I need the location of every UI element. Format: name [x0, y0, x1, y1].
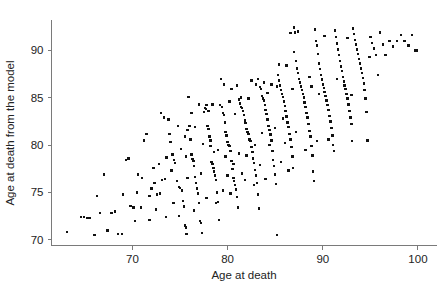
- data-point: [223, 114, 225, 116]
- data-point: [216, 191, 218, 193]
- data-point: [316, 140, 318, 142]
- data-point: [360, 67, 362, 69]
- data-point: [336, 42, 338, 44]
- x-tick-label: 90: [316, 253, 329, 265]
- data-point: [343, 84, 345, 86]
- data-point: [342, 76, 344, 78]
- data-point: [332, 144, 334, 146]
- data-point: [236, 196, 238, 198]
- data-point: [200, 172, 202, 174]
- data-point: [99, 212, 101, 214]
- data-point: [272, 159, 274, 161]
- data-point: [224, 131, 226, 133]
- data-point: [303, 101, 305, 103]
- data-point: [275, 183, 277, 185]
- data-point: [161, 179, 163, 181]
- data-point: [392, 45, 394, 47]
- data-point: [329, 120, 331, 122]
- data-point: [88, 217, 90, 219]
- data-point: [253, 162, 255, 164]
- data-point: [179, 187, 181, 189]
- data-point: [280, 89, 282, 91]
- data-point: [388, 40, 390, 42]
- data-point: [211, 163, 213, 165]
- x-tick-label: 80: [221, 253, 234, 265]
- data-point: [337, 48, 339, 50]
- data-point: [224, 155, 226, 157]
- data-point: [178, 215, 180, 217]
- data-point: [239, 102, 241, 104]
- x-tick-label: 100: [408, 253, 427, 265]
- data-point: [185, 226, 187, 228]
- data-point: [284, 110, 286, 112]
- data-point: [229, 192, 231, 194]
- data-point: [403, 40, 405, 42]
- data-point: [266, 92, 268, 94]
- data-point: [242, 110, 244, 112]
- data-point: [273, 165, 275, 167]
- data-point: [66, 231, 68, 233]
- data-point: [148, 195, 150, 197]
- data-point: [134, 220, 136, 222]
- data-point: [163, 116, 165, 118]
- data-point: [334, 29, 336, 31]
- data-point: [289, 32, 291, 34]
- data-point: [396, 40, 398, 42]
- data-point: [171, 153, 173, 155]
- data-point: [260, 88, 262, 90]
- data-point: [189, 138, 191, 140]
- data-point: [234, 184, 236, 186]
- data-point: [215, 202, 217, 204]
- data-point: [323, 35, 325, 37]
- data-point: [205, 104, 207, 106]
- data-point: [348, 110, 350, 112]
- data-point: [312, 170, 314, 172]
- data-point: [265, 113, 267, 115]
- data-point: [188, 125, 190, 127]
- data-point: [278, 79, 280, 81]
- data-point: [232, 177, 234, 179]
- data-point: [358, 58, 360, 60]
- data-point: [281, 93, 283, 95]
- data-point: [282, 117, 284, 119]
- data-point: [377, 74, 379, 76]
- data-point: [285, 64, 287, 66]
- data-point: [211, 103, 213, 105]
- data-point: [207, 128, 209, 130]
- data-point: [375, 54, 377, 56]
- data-point: [266, 118, 268, 120]
- data-point: [243, 114, 245, 116]
- data-point: [257, 78, 259, 80]
- data-point: [314, 28, 316, 30]
- data-point: [232, 163, 234, 165]
- data-point: [259, 164, 261, 166]
- data-point: [326, 104, 328, 106]
- data-point: [263, 99, 265, 101]
- data-point: [125, 159, 127, 161]
- data-point: [278, 63, 280, 65]
- data-point: [233, 180, 235, 182]
- data-point: [306, 116, 308, 118]
- data-point: [244, 119, 246, 121]
- data-point: [209, 139, 211, 141]
- data-point: [184, 135, 186, 137]
- data-point: [158, 163, 160, 165]
- data-point: [240, 96, 242, 98]
- data-point: [174, 162, 176, 164]
- data-point: [212, 167, 214, 169]
- data-point: [264, 178, 266, 180]
- data-point: [201, 232, 203, 234]
- data-point: [361, 72, 363, 74]
- data-point: [155, 208, 157, 210]
- data-point: [288, 133, 290, 135]
- data-point: [300, 85, 302, 87]
- data-point: [382, 43, 384, 45]
- data-point: [190, 112, 192, 114]
- data-point: [365, 111, 367, 113]
- data-point: [207, 110, 209, 112]
- data-point: [225, 134, 227, 136]
- data-point: [186, 129, 188, 131]
- data-point: [164, 178, 166, 180]
- data-point: [237, 206, 239, 208]
- data-point: [339, 60, 341, 62]
